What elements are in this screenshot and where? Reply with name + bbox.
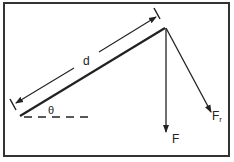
dimension-tick-left: [10, 99, 16, 110]
force-diagram: d θ F Fr: [0, 0, 234, 162]
inclined-bar: [20, 28, 165, 116]
distance-label: d: [83, 54, 90, 68]
dimension-arrow-right: [99, 17, 156, 52]
force-fr-label-subscript: r: [219, 115, 222, 124]
force-fr-label-main: F: [212, 109, 219, 123]
force-fr-arrow: [166, 28, 211, 112]
angle-label: θ: [48, 104, 54, 116]
force-f-label: F: [172, 132, 179, 146]
dimension-arrow-left: [16, 68, 74, 103]
force-fr-label: Fr: [212, 109, 222, 124]
